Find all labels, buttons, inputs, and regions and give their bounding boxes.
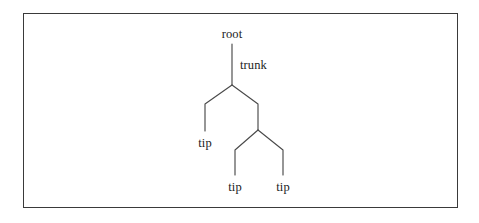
branch-to-tip-right-line — [258, 130, 283, 175]
branch-to-tip-left-line — [205, 85, 232, 131]
tip-middle-label: tip — [228, 181, 242, 194]
branch-to-tip-middle-line — [235, 130, 258, 175]
tip-left-label: tip — [198, 137, 212, 150]
root-label: root — [222, 28, 243, 41]
branch-to-internal-node-2-line — [232, 85, 258, 130]
tip-right-label: tip — [276, 181, 290, 194]
trunk-label: trunk — [240, 59, 267, 72]
figure-page: root trunk tip tip tip — [0, 0, 479, 223]
